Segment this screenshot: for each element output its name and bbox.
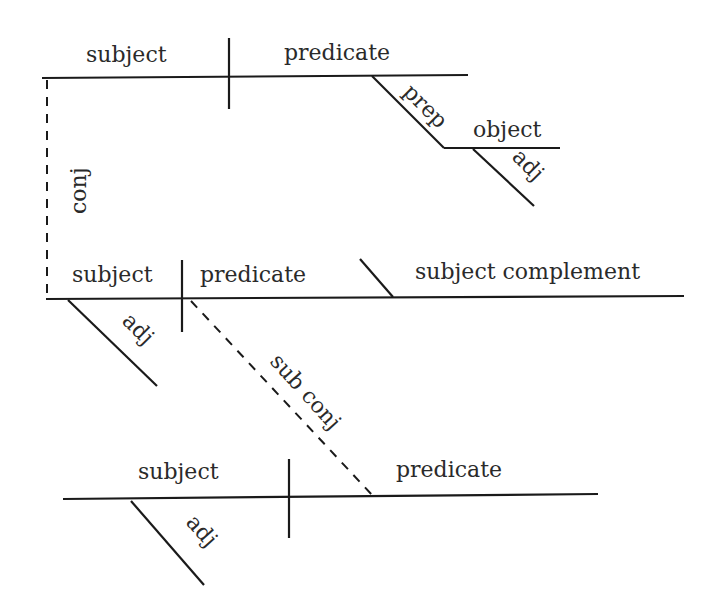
clause-1-baseline (42, 75, 468, 78)
clause-3-adjective-line (131, 501, 204, 585)
object-adjective-label: adj (507, 144, 549, 186)
clause-3-baseline (63, 494, 598, 499)
clause-2: subject predicate subject complement adj (46, 259, 684, 386)
clause-3-subject-label: subject (138, 459, 219, 484)
clause-3: subject predicate adj (63, 457, 598, 585)
clause-1: subject predicate prep object adj (42, 38, 560, 206)
clause-1-predicate-label: predicate (284, 40, 390, 65)
complement-divider (360, 259, 393, 297)
clause-2-baseline (46, 296, 684, 299)
sub-conj-label: sub conj (265, 349, 346, 435)
clause-2-predicate-label: predicate (200, 262, 306, 287)
clause-2-adjective-label: adj (117, 308, 159, 350)
clause-3-adjective-label: adj (181, 510, 222, 552)
clause-3-predicate-label: predicate (396, 457, 502, 482)
clause-1-subject-label: subject (86, 42, 167, 67)
clause-2-subject-label: subject (72, 262, 153, 287)
preposition-label: prep (398, 79, 452, 133)
conjunction-label: conj (66, 167, 91, 214)
subject-complement-label: subject complement (415, 259, 640, 284)
object-label: object (473, 117, 541, 142)
sentence-diagram: subject predicate prep object adj conj s… (0, 0, 720, 602)
